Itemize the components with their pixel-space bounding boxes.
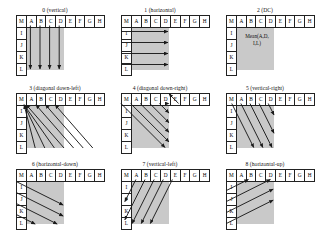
row-header-K: K [227,52,237,64]
grid-cell [161,64,171,76]
row-header-L: L [17,142,27,154]
grid-cell [36,28,46,40]
grid-cell [131,218,141,230]
grid-cell [75,106,85,118]
grid-cell [161,106,171,118]
grid-cell [36,118,46,130]
grid-cell [275,52,285,64]
grid-header-row: MABCDEFGH [122,94,210,106]
grid-cell [305,218,315,230]
grid-cell [26,106,36,118]
panel-title-5: 5 (vertical-right) [212,84,318,92]
grid-cell [151,40,161,52]
col-header-A: A [26,94,36,106]
grid-cell [200,142,210,154]
grid-cell [141,142,151,154]
row-header-K: K [17,130,27,142]
col-header-F: F [75,94,85,106]
grid-table-3: MABCDEFGHIJKL [16,93,105,154]
grid-header-row: MABCDEFGH [17,94,105,106]
col-header-H: H [95,170,105,182]
grid-row-K: K [122,206,210,218]
grid-cell [46,64,56,76]
grid-cell [36,218,46,230]
grid-cell [236,106,246,118]
grid-cell [65,28,75,40]
grid-cell [200,118,210,130]
row-header-K: K [227,130,237,142]
grid-cell [200,206,210,218]
grid-cell [305,142,315,154]
grid-cell [236,118,246,130]
grid-cell [95,194,105,206]
col-header-H: H [95,16,105,28]
col-header-E: E [275,94,285,106]
grid-cell [275,130,285,142]
grid-row-I: I [17,182,105,194]
grid-cell [65,218,75,230]
col-header-A: A [236,16,246,28]
grid-cell [85,52,95,64]
grid-cell [131,40,141,52]
grid-cell [36,206,46,218]
grid-cell [266,182,276,194]
grid-table-6: MABCDEFGHIJKL [16,169,105,230]
row-header-J: J [227,194,237,206]
grid-cell [295,64,305,76]
grid-row-I: I [122,106,210,118]
grid-cell [95,106,105,118]
grid-cell [275,118,285,130]
grid-header-row: MABCDEFGH [227,170,315,182]
grid-cell [190,194,200,206]
col-header-B: B [36,94,46,106]
grid-cell [141,106,151,118]
grid-cell [46,130,56,142]
grid-cell [285,106,295,118]
grid-cell [275,106,285,118]
grid-cell [266,218,276,230]
grid-cell [95,218,105,230]
grid-cell [151,194,161,206]
grid-cell [305,28,315,40]
prediction-mode-panel-7: 7 (vertical-left)MABCDEFGHIJKL [107,160,213,234]
panel-title-1: 1 (horizontal) [107,6,213,14]
grid-cell [161,130,171,142]
grid-cell [141,118,151,130]
col-header-G: G [295,94,305,106]
grid-cell [200,194,210,206]
grid-cell [200,40,210,52]
grid-row-I: I [227,106,315,118]
grid-cell [65,40,75,52]
row-header-K: K [122,130,132,142]
grid-row-J: J [122,194,210,206]
grid-cell [200,106,210,118]
col-header-A: A [26,170,36,182]
grid-cell [200,28,210,40]
col-header-M: M [227,16,237,28]
grid-cell [75,40,85,52]
grid-cell [141,218,151,230]
grid-cell [75,52,85,64]
grid-cell [256,142,266,154]
col-header-F: F [285,170,295,182]
grid-cell [266,142,276,154]
grid-cell [141,40,151,52]
col-header-G: G [190,170,200,182]
grid-row-J: J [17,194,105,206]
row-header-I: I [227,106,237,118]
panel-title-7: 7 (vertical-left) [107,160,213,168]
col-header-C: C [256,170,266,182]
prediction-mode-panel-1: 1 (horizontal)MABCDEFGHIJKL [107,6,213,84]
grid-cell [56,40,66,52]
grid-cell [141,52,151,64]
grid-cell [131,28,141,40]
grid-cell [246,194,256,206]
grid-cell [170,40,180,52]
grid-cell [190,130,200,142]
row-header-K: K [17,206,27,218]
grid-cell [190,106,200,118]
col-header-E: E [170,170,180,182]
col-header-F: F [285,16,295,28]
col-header-G: G [295,16,305,28]
grid-cell [305,118,315,130]
